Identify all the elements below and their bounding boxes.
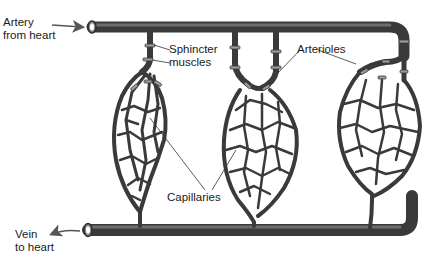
capillaries-label: Capillaries (167, 191, 221, 204)
sphincter-label-line1: Sphincter (169, 43, 218, 56)
capillary-bed-diagram (0, 0, 434, 263)
vein-arrow (52, 230, 80, 234)
sphincter-label: Sphincter muscles (169, 43, 218, 69)
arterioles-label-text: Arterioles (297, 43, 346, 56)
artery-label-line1: Artery (3, 16, 55, 29)
artery-vessel (88, 21, 404, 56)
arterioles-label: Arterioles (297, 43, 346, 56)
artery-label-line2: from heart (3, 29, 55, 42)
capillaries-label-text: Capillaries (167, 191, 221, 204)
vein-label: Vein to heart (15, 228, 54, 254)
capillary-bed-center (224, 30, 297, 226)
artery-arrow (52, 25, 82, 27)
sphincter-label-line2: muscles (169, 56, 218, 69)
artery-label: Artery from heart (3, 16, 55, 42)
vein-label-line2: to heart (15, 241, 54, 254)
vein-label-line1: Vein (15, 228, 54, 241)
